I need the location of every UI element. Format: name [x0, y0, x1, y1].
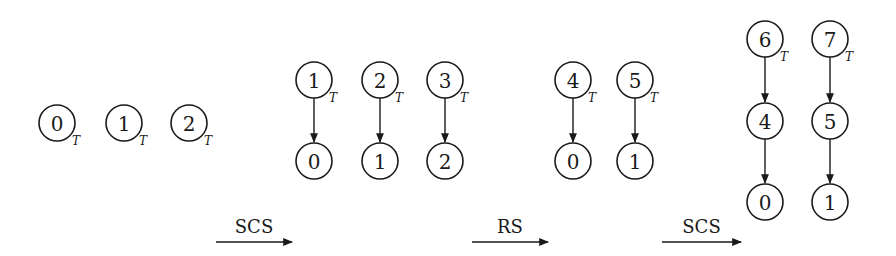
- tree-node: 1: [812, 184, 848, 220]
- operation-arrow-scs: SCS: [216, 216, 292, 242]
- node-label: 7: [824, 28, 837, 52]
- node-label: 1: [824, 191, 837, 215]
- operation-label: SCS: [682, 216, 720, 237]
- tag-label: T: [329, 91, 338, 105]
- tag-label: T: [780, 50, 789, 64]
- tag-label: T: [588, 91, 597, 105]
- tag-label: T: [650, 91, 659, 105]
- node-label: 2: [183, 112, 196, 136]
- node-label: 5: [629, 69, 642, 93]
- node-label: 4: [567, 69, 580, 93]
- tag-label: T: [72, 134, 81, 148]
- tree-node: 3T: [427, 62, 469, 105]
- tree-node: 1T: [106, 105, 148, 148]
- tree-node: 1: [617, 143, 653, 179]
- tree-node: 2: [427, 143, 463, 179]
- tree-node: 1: [362, 143, 398, 179]
- node-label: 0: [51, 112, 64, 136]
- node-label: 5: [824, 110, 837, 134]
- tag-label: T: [395, 91, 404, 105]
- operations-layer: SCSRSSCS: [216, 216, 741, 242]
- tag-label: T: [460, 91, 469, 105]
- operation-label: SCS: [235, 216, 273, 237]
- tag-label: T: [204, 134, 213, 148]
- tree-node: 0: [555, 143, 591, 179]
- node-label: 1: [308, 69, 321, 93]
- tree-transformation-diagram: 0T1T2T1T2T3T0124T5T016T7T4501 SCSRSSCS: [0, 0, 896, 256]
- tree-node: 2T: [171, 105, 213, 148]
- tree-node: 0: [747, 184, 783, 220]
- nodes-layer: 0T1T2T1T2T3T0124T5T016T7T4501: [39, 21, 854, 220]
- node-label: 1: [629, 150, 642, 174]
- node-label: 0: [567, 150, 580, 174]
- node-label: 2: [374, 69, 387, 93]
- tree-node: 4T: [555, 62, 597, 105]
- tree-node: 0T: [39, 105, 81, 148]
- stage-0: 0T1T2T: [39, 105, 213, 148]
- node-label: 3: [439, 69, 452, 93]
- tag-label: T: [139, 134, 148, 148]
- tag-label: T: [845, 50, 854, 64]
- operation-label: RS: [497, 216, 523, 237]
- operation-arrow-rs: RS: [472, 216, 548, 242]
- tree-node: 6T: [747, 21, 789, 64]
- tree-node: 5T: [617, 62, 659, 105]
- node-label: 0: [759, 191, 772, 215]
- tree-node: 0: [296, 143, 332, 179]
- node-label: 2: [439, 150, 452, 174]
- tree-node: 2T: [362, 62, 404, 105]
- tree-node: 1T: [296, 62, 338, 105]
- node-label: 0: [308, 150, 321, 174]
- stage-2: 4T5T01: [555, 62, 659, 179]
- tree-node: 4: [747, 103, 783, 139]
- node-label: 6: [759, 28, 772, 52]
- stage-1: 1T2T3T012: [296, 62, 469, 179]
- tree-node: 7T: [812, 21, 854, 64]
- node-label: 1: [118, 112, 131, 136]
- operation-arrow-scs: SCS: [662, 216, 741, 242]
- node-label: 1: [374, 150, 387, 174]
- node-label: 4: [759, 110, 772, 134]
- stage-3: 6T7T4501: [747, 21, 854, 220]
- tree-node: 5: [812, 103, 848, 139]
